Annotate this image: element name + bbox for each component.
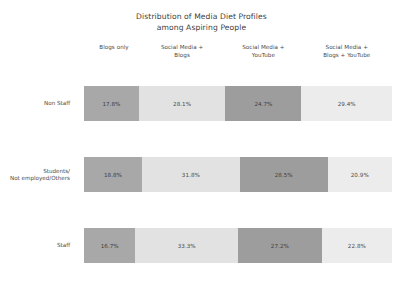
table-row: Students/ Not employed/Others 18.8% 31.8… [0,157,403,192]
table-row: Non Staff 17.8% 28.1% 24.7% 29.4% [0,86,403,121]
category-label-staff: Staff [0,242,76,249]
bar-segment-social-media-blogs[interactable]: 33.3% [135,228,238,263]
stacked-bar-staff: 16.7% 33.3% 27.2% 22.8% [84,228,392,263]
bar-value-label: 18.8% [104,172,122,178]
bar-value-label: 24.7% [254,101,272,107]
bar-value-label: 27.2% [271,243,289,249]
category-label-line-1: Non Staff [0,100,70,107]
stacked-bar-non-staff: 17.8% 28.1% 24.7% 29.4% [84,86,392,121]
bar-value-label: 17.8% [102,101,120,107]
category-label-line-1: Students/ [0,167,70,174]
category-label-students-not-employed-others: Students/ Not employed/Others [0,167,76,182]
table-row: Staff 16.7% 33.3% 27.2% 22.8% [0,228,403,263]
category-label-line-1: Staff [0,242,70,249]
category-label-non-staff: Non Staff [0,100,76,107]
bar-segment-social-media-blogs-youtube[interactable]: 22.8% [322,228,392,263]
bar-segment-social-media-youtube[interactable]: 27.2% [238,228,322,263]
stacked-bar-students-not-employed-others: 18.8% 31.8% 28.5% 20.9% [84,157,392,192]
bar-value-label: 16.7% [101,243,119,249]
bar-segment-blogs-only[interactable]: 17.8% [84,86,139,121]
bar-segment-social-media-youtube[interactable]: 24.7% [225,86,301,121]
bar-value-label: 28.5% [275,172,293,178]
bar-segment-social-media-youtube[interactable]: 28.5% [240,157,328,192]
bar-value-label: 33.3% [178,243,196,249]
bar-segment-social-media-blogs-youtube[interactable]: 20.9% [328,157,392,192]
bar-value-label: 29.4% [338,101,356,107]
bar-segment-blogs-only[interactable]: 18.8% [84,157,142,192]
category-label-line-2: Not employed/Others [0,175,70,182]
bar-value-label: 28.1% [173,101,191,107]
chart-plot-area: Non Staff 17.8% 28.1% 24.7% 29.4% St [0,0,403,282]
bar-value-label: 22.8% [348,243,366,249]
bar-segment-social-media-blogs-youtube[interactable]: 29.4% [301,86,392,121]
bar-value-label: 31.8% [182,172,200,178]
bar-segment-blogs-only[interactable]: 16.7% [84,228,135,263]
bar-segment-social-media-blogs[interactable]: 28.1% [139,86,226,121]
bar-value-label: 20.9% [351,172,369,178]
stacked-bar-chart: Distribution of Media Diet Profiles amon… [0,0,403,282]
bar-segment-social-media-blogs[interactable]: 31.8% [142,157,240,192]
